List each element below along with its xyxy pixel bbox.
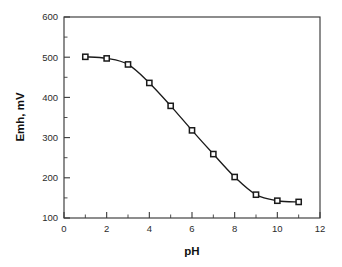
data-point-marker [147, 80, 152, 85]
plot-canvas: 100200300400500600 024681012 pH Emh, mV [0, 0, 342, 267]
data-point-marker [296, 199, 301, 204]
y-tick-label: 600 [42, 11, 58, 22]
data-point-marker [232, 174, 237, 179]
x-axis-title: pH [184, 245, 199, 257]
x-tick-label: 4 [147, 223, 152, 234]
data-point-marker [253, 192, 258, 197]
x-tick-label: 0 [61, 223, 66, 234]
y-tick-label: 400 [42, 92, 58, 103]
chart-figure: 100200300400500600 024681012 pH Emh, mV [0, 0, 342, 267]
data-point-marker [125, 62, 130, 67]
y-tick-label: 500 [42, 52, 58, 63]
data-point-marker [104, 56, 109, 61]
data-point-marker [211, 151, 216, 156]
y-tick-label: 100 [42, 212, 58, 223]
y-axis-title: Emh, mV [14, 92, 26, 142]
data-point-marker [275, 198, 280, 203]
y-tick-label: 200 [42, 172, 58, 183]
x-tick-label: 8 [232, 223, 237, 234]
x-tick-label: 2 [104, 223, 109, 234]
x-tick-label: 6 [189, 223, 194, 234]
data-point-marker [83, 54, 88, 59]
data-point-marker [168, 103, 173, 108]
data-point-marker [189, 128, 194, 133]
x-tick-label: 10 [272, 223, 283, 234]
y-tick-label: 300 [42, 132, 58, 143]
x-tick-label: 12 [315, 223, 326, 234]
